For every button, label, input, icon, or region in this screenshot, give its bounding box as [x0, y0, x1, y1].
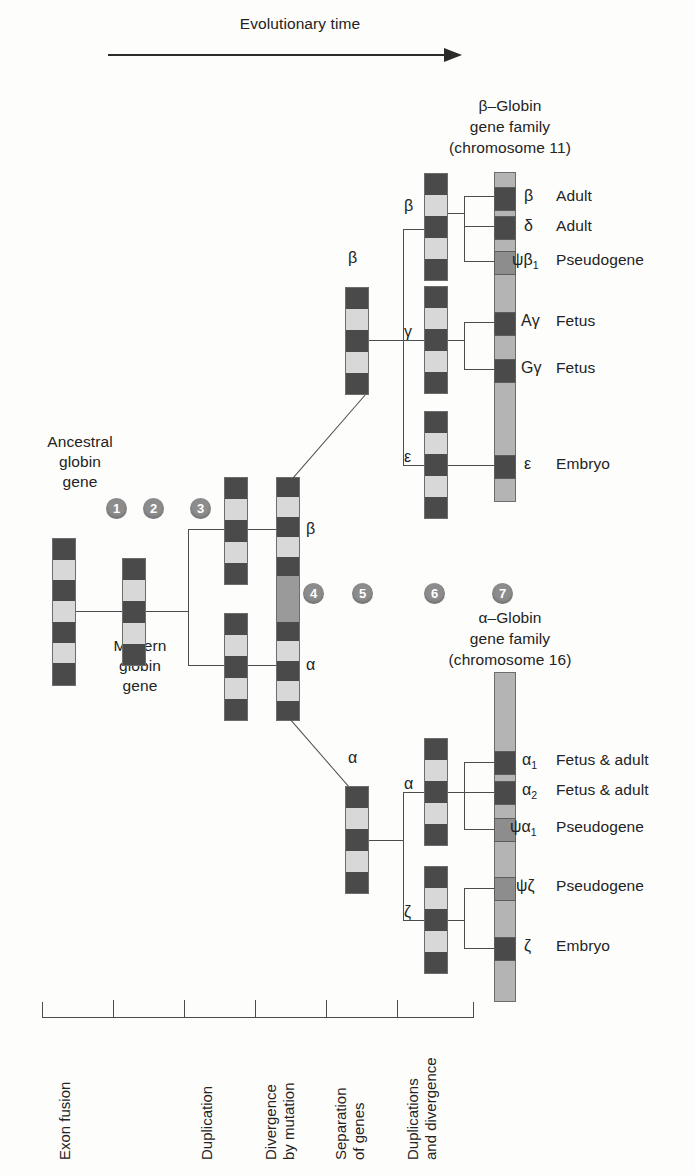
timeline-tick-3 [255, 1000, 256, 1018]
step-marker-1: 1 [106, 498, 127, 519]
locus-g-gamma [494, 359, 516, 383]
alpha-family-title-line1: α–Globin [410, 608, 610, 628]
step-marker-7: 7 [492, 583, 513, 604]
separated-alpha-gene-bar [345, 786, 369, 894]
epsilon-gene-expression: Embryo [556, 454, 610, 474]
connector-to-beta-locus [464, 196, 496, 197]
psi-alpha-1-gene-expression: Pseudogene [556, 817, 644, 837]
beta-family-title-line1: β–Globin [410, 96, 610, 116]
alpha-family-title-line2: gene family [410, 629, 610, 649]
duplicated-gene-bar-lower [224, 613, 248, 721]
ancestral-gene-label-line1: Ancestral [20, 432, 140, 452]
timeline-label-separation-of-genes: Separation of genes [332, 1087, 369, 1160]
connector-to-zeta-locus [464, 948, 496, 949]
step-marker-2: 2 [143, 498, 164, 519]
separation-diagonal-beta [288, 392, 368, 483]
locus-alpha-2 [494, 781, 516, 805]
beta-triple-fork-vertical [464, 196, 465, 261]
alpha-lineage-label: α [404, 774, 413, 794]
timeline-label-duplications-and-divergence: Duplications and divergence [404, 1057, 441, 1160]
a-gamma-gene-expression: Fetus [556, 311, 595, 331]
divergence-beta-label: β [306, 519, 315, 539]
connector-to-alpha1-locus [464, 762, 496, 763]
separated-beta-gene-bar [345, 287, 369, 395]
timeline-left-cap [42, 1002, 43, 1018]
chromosome-11-bar [494, 172, 516, 502]
alpha-family-title-line3: (chromosome 16) [410, 650, 610, 670]
divergence-alpha-label: α [306, 655, 315, 675]
alpha-1-gene-symbol: α1 [522, 750, 537, 773]
delta-gene-expression: Adult [556, 216, 592, 236]
modern-gene-label-line3: gene [85, 676, 195, 696]
locus-psi-zeta [494, 877, 516, 901]
gamma-lineage-label: γ [404, 322, 412, 342]
g-gamma-gene-symbol: Gγ [521, 358, 542, 378]
psi-zeta-gene-symbol: ψζ [516, 876, 535, 896]
timeline-tick-1 [113, 1000, 114, 1018]
connector-gamma-gene-out [448, 340, 464, 341]
beta-gene-symbol: β [524, 186, 533, 206]
modern-globin-gene-bar [122, 558, 146, 666]
zeta-gene-symbol: ζ [524, 936, 531, 956]
locus-beta [494, 187, 516, 211]
g-gamma-gene-expression: Fetus [556, 358, 595, 378]
connector-to-epsilon-locus [448, 465, 496, 466]
alpha-lineage-gene-bar [424, 738, 448, 846]
beta-fork-vertical [403, 229, 404, 465]
locus-delta [494, 216, 516, 240]
step-marker-5: 5 [352, 583, 373, 604]
psi-alpha-1-gene-symbol: ψα1 [510, 817, 537, 840]
connector-to-psibeta1-locus [464, 261, 496, 262]
beta-gene-expression: Adult [556, 186, 592, 206]
gamma-lineage-gene-bar [424, 286, 448, 394]
epsilon-lineage-label: ε [404, 447, 411, 467]
timeline-label-divergence-by-mutation: Divergence by mutation [262, 1082, 299, 1160]
beta-fork-stem [369, 340, 403, 341]
step-marker-6: 6 [424, 583, 445, 604]
duplication-fork-top-branch [188, 529, 224, 530]
epsilon-gene-symbol: ε [524, 454, 531, 474]
connector-zeta-gene-out [448, 920, 464, 921]
connector-beta-gene-out [448, 213, 464, 214]
alpha-2-gene-expression: Fetus & adult [556, 780, 649, 800]
connector-to-ggamma-locus [464, 369, 496, 370]
locus-alpha-1 [494, 751, 516, 775]
timeline-tick-5 [397, 1000, 398, 1018]
gamma-fork-vertical [464, 322, 465, 369]
timeline-label-duplication: Duplication [198, 1086, 216, 1160]
zeta-gene-expression: Embryo [556, 936, 610, 956]
separated-alpha-label: α [348, 748, 357, 768]
connector-to-agamma-locus [464, 322, 496, 323]
zeta-lineage-label: ζ [404, 902, 411, 922]
connector-upper-to-divergence [248, 529, 276, 530]
ancestral-globin-gene-bar [52, 538, 76, 686]
alpha-2-gene-symbol: α2 [522, 780, 537, 803]
alpha-fork-vertical [403, 792, 404, 920]
connector-to-delta-locus [464, 226, 496, 227]
timeline-tick-2 [184, 1000, 185, 1018]
psi-beta-1-gene-symbol: ψβ1 [512, 250, 539, 273]
zeta-lineage-gene-bar [424, 866, 448, 974]
connector-alpha-gene-out [448, 792, 464, 793]
timeline-label-exon-fusion: Exon fusion [56, 1082, 74, 1160]
evolutionary-time-arrow-line [108, 54, 446, 56]
locus-zeta [494, 937, 516, 961]
epsilon-lineage-gene-bar [424, 411, 448, 519]
divergence-combined-gene-bar [276, 477, 300, 721]
evolutionary-time-label: Evolutionary time [180, 14, 420, 34]
step-marker-4: 4 [303, 583, 324, 604]
timeline-right-cap [473, 1002, 474, 1018]
duplication-fork-bottom-branch [188, 665, 224, 666]
zeta-fork-vertical [464, 888, 465, 948]
connector-to-psialpha1-locus [464, 829, 496, 830]
step-marker-3: 3 [190, 498, 211, 519]
connector-modern-to-fork [146, 611, 188, 612]
locus-epsilon [494, 455, 516, 479]
separated-beta-label: β [348, 248, 357, 268]
beta-family-title-line3: (chromosome 11) [410, 138, 610, 158]
timeline-tick-4 [326, 1000, 327, 1018]
delta-gene-symbol: δ [524, 216, 533, 236]
timeline-axis [42, 1017, 474, 1018]
connector-to-alpha2-locus [464, 792, 496, 793]
alpha-fork-stem [369, 840, 403, 841]
